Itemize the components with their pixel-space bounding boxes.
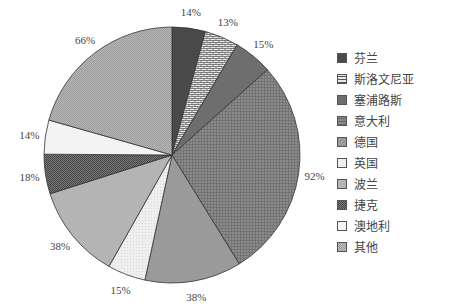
data-label: 14%: [19, 129, 39, 141]
data-label: 15%: [111, 284, 131, 296]
legend-item: 澳地利: [337, 215, 414, 236]
legend-label: 澳地利: [354, 217, 390, 234]
data-label: 18%: [20, 171, 40, 183]
data-label: 13%: [218, 16, 238, 28]
legend-item: 塞浦路斯: [337, 89, 414, 110]
legend-item: 波兰: [337, 173, 414, 194]
legend-item: 其他: [337, 236, 414, 257]
legend-label: 意大利: [354, 112, 390, 129]
data-label: 92%: [304, 170, 324, 182]
legend-label: 芬兰: [354, 49, 378, 66]
data-label: 38%: [186, 291, 206, 303]
legend-item: 德国: [337, 131, 414, 152]
legend-item: 英国: [337, 152, 414, 173]
legend-item: 芬兰: [337, 47, 414, 68]
legend-swatch: [337, 116, 347, 126]
legend-item: 捷克: [337, 194, 414, 215]
legend-swatch: [337, 221, 347, 231]
legend-label: 捷克: [354, 196, 378, 213]
pie-slices: [44, 27, 300, 283]
legend: 芬兰斯洛文尼亚塞浦路斯意大利德国英国波兰捷克澳地利其他: [337, 47, 414, 257]
legend-label: 斯洛文尼亚: [354, 70, 414, 87]
data-label: 14%: [181, 6, 201, 18]
legend-swatch: [337, 200, 347, 210]
legend-label: 塞浦路斯: [354, 91, 402, 108]
legend-label: 其他: [354, 238, 378, 255]
legend-item: 斯洛文尼亚: [337, 68, 414, 89]
legend-swatch: [337, 179, 347, 189]
legend-label: 英国: [354, 154, 378, 171]
legend-label: 德国: [354, 133, 378, 150]
legend-swatch: [337, 158, 347, 168]
legend-swatch: [337, 137, 347, 147]
legend-item: 意大利: [337, 110, 414, 131]
data-label: 66%: [75, 34, 95, 46]
legend-swatch: [337, 74, 347, 84]
legend-swatch: [337, 242, 347, 252]
data-label: 38%: [50, 240, 70, 252]
legend-swatch: [337, 95, 347, 105]
legend-label: 波兰: [354, 175, 378, 192]
legend-swatch: [337, 53, 347, 63]
data-label: 15%: [253, 38, 273, 50]
